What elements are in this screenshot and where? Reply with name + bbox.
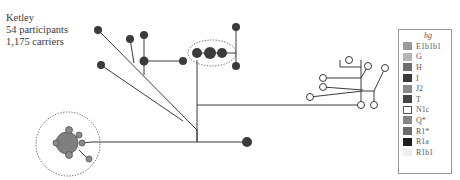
legend-swatch xyxy=(403,148,412,156)
network-node xyxy=(192,48,202,58)
legend-label: R1* xyxy=(416,127,429,136)
network-node xyxy=(232,62,240,70)
haplogroup-legend: hg E1b1b1GHIJ2TN1cQ*R1*R1aR1b1 xyxy=(398,29,452,174)
network-node xyxy=(140,57,149,66)
network-node xyxy=(126,35,134,43)
network-node-open xyxy=(371,102,378,109)
legend-item: H xyxy=(399,62,451,73)
legend-item: R1a xyxy=(399,136,451,147)
network-node xyxy=(79,140,85,146)
legend-label: T xyxy=(416,95,421,104)
legend-label: R1b1 xyxy=(416,148,433,157)
legend-item: R1* xyxy=(399,126,451,137)
legend-item: T xyxy=(399,94,451,105)
legend-label: G xyxy=(416,52,422,61)
network-node xyxy=(76,132,82,138)
network-node xyxy=(232,23,240,31)
network-node-open xyxy=(346,57,353,64)
legend-item: G xyxy=(399,52,451,63)
network-node-open xyxy=(320,75,327,82)
network-node xyxy=(86,156,92,162)
legend-item: N1c xyxy=(399,105,451,116)
legend-swatch xyxy=(403,42,412,50)
legend-swatch xyxy=(403,53,412,61)
network-node-open xyxy=(365,63,372,70)
legend-label: J2 xyxy=(416,84,423,93)
network-node xyxy=(94,26,102,34)
network-node-open xyxy=(320,84,327,91)
legend-swatch xyxy=(403,63,412,71)
legend-title: hg xyxy=(399,30,451,41)
legend-swatch xyxy=(403,74,412,82)
network-node xyxy=(204,47,216,59)
legend-item: I xyxy=(399,73,451,84)
legend-item: J2 xyxy=(399,83,451,94)
network-node xyxy=(140,31,148,39)
network-node xyxy=(53,140,59,146)
network-node-open xyxy=(307,94,314,101)
legend-item: Q* xyxy=(399,115,451,126)
network-node-open xyxy=(382,65,389,72)
legend-swatch xyxy=(403,85,412,93)
legend-swatch xyxy=(403,95,412,103)
legend-label: N1c xyxy=(416,105,429,114)
legend-swatch xyxy=(403,116,412,124)
legend-item: E1b1b1 xyxy=(399,41,451,52)
network-node xyxy=(66,127,73,134)
legend-label: H xyxy=(416,63,422,72)
legend-item: R1b1 xyxy=(399,147,451,158)
legend-label: R1a xyxy=(416,137,429,146)
legend-swatch xyxy=(403,106,412,114)
network-node xyxy=(242,137,252,147)
network-node xyxy=(97,61,105,69)
legend-label: I xyxy=(416,74,419,83)
legend-swatch xyxy=(403,138,412,146)
network-node xyxy=(66,152,73,159)
legend-label: E1b1b1 xyxy=(416,42,441,51)
legend-swatch xyxy=(403,127,412,135)
median-joining-network xyxy=(0,0,460,180)
network-node xyxy=(217,48,227,58)
network-node xyxy=(179,57,187,65)
legend-label: Q* xyxy=(416,116,426,125)
network-node-open xyxy=(358,102,365,109)
